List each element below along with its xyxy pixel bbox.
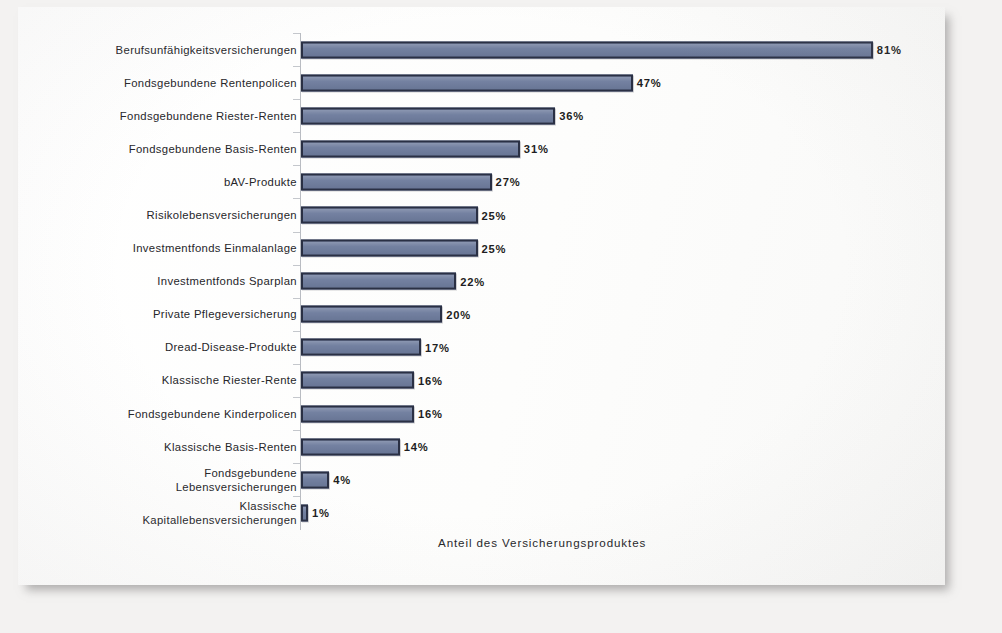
axis-tick (293, 132, 300, 133)
bar-and-value: 36% (301, 107, 584, 124)
bar-value-label: 16% (418, 374, 443, 386)
bar-row: Fondsgebundene Rentenpolicen47% (18, 66, 945, 99)
bar-value-label: 25% (482, 209, 507, 221)
bar-row: Risikolebensversicherungen25% (18, 198, 945, 231)
bar (301, 405, 414, 422)
bar-and-value: 25% (301, 240, 506, 257)
axis-tick (293, 298, 300, 299)
bar-and-value: 16% (301, 372, 443, 389)
category-label: Fondsgebundene Kinderpolicen (35, 407, 297, 421)
category-label: Fondsgebundene Rentenpolicen (35, 76, 297, 90)
bar (301, 240, 478, 257)
axis-tick (293, 165, 300, 166)
bar-and-value: 20% (301, 306, 471, 323)
axis-tick (293, 265, 300, 266)
bar-rows-container: Berufsunfähigkeitsversicherungen81%Fonds… (18, 33, 945, 529)
bar-row: Fondsgebundene Lebensversicherungen4% (18, 463, 945, 496)
axis-tick (293, 397, 300, 398)
category-label: bAV-Produkte (35, 175, 297, 189)
bar-and-value: 17% (301, 339, 450, 356)
category-label: Fondsgebundene Basis-Renten (35, 142, 297, 156)
axis-tick (293, 496, 300, 497)
bar (301, 372, 414, 389)
bar (301, 207, 478, 224)
bar-value-label: 16% (418, 408, 443, 420)
bar-row: Klassische Basis-Renten14% (18, 430, 945, 463)
bar-and-value: 16% (301, 405, 443, 422)
category-label: Private Pflegeversicherung (35, 307, 297, 321)
bar-row: Klassische Riester-Rente16% (18, 364, 945, 397)
bar-value-label: 1% (312, 507, 330, 519)
axis-tick (293, 232, 300, 233)
bar-and-value: 31% (301, 140, 549, 157)
category-label: Risikolebensversicherungen (35, 208, 297, 222)
bar-value-label: 14% (404, 441, 429, 453)
bar-row: Fondsgebundene Basis-Renten31% (18, 132, 945, 165)
bar-value-label: 36% (559, 110, 584, 122)
category-label: Klassische Kapitallebensversicherungen (35, 499, 297, 527)
category-label: Fondsgebundene Lebensversicherungen (35, 466, 297, 494)
category-label: Dread-Disease-Produkte (35, 340, 297, 354)
bar-and-value: 4% (301, 471, 351, 488)
bar-and-value: 1% (301, 504, 330, 521)
bar-row: Private Pflegeversicherung20% (18, 298, 945, 331)
bar (301, 140, 520, 157)
axis-tick (293, 198, 300, 199)
bar-chart: Berufsunfähigkeitsversicherungen81%Fonds… (18, 7, 945, 585)
bar-row: Fondsgebundene Kinderpolicen16% (18, 397, 945, 430)
bar-row: Dread-Disease-Produkte17% (18, 331, 945, 364)
bar-row: bAV-Produkte27% (18, 165, 945, 198)
bar-row: Klassische Kapitallebensversicherungen1% (18, 496, 945, 529)
axis-tick (293, 430, 300, 431)
axis-tick (293, 331, 300, 332)
bar-row: Investmentfonds Sparplan22% (18, 265, 945, 298)
category-label: Berufsunfähigkeitsversicherungen (35, 43, 297, 57)
axis-tick (293, 99, 300, 100)
bar-value-label: 20% (446, 308, 471, 320)
bar (301, 107, 555, 124)
axis-tick (293, 463, 300, 464)
bar-and-value: 14% (301, 438, 429, 455)
bar-value-label: 27% (496, 176, 521, 188)
bar (301, 173, 492, 190)
bar (301, 339, 421, 356)
axis-tick (293, 33, 300, 34)
category-label: Investmentfonds Sparplan (35, 274, 297, 288)
bar (301, 74, 633, 91)
bar (301, 438, 400, 455)
x-axis-caption: Anteil des Versicherungsproduktes (438, 536, 646, 549)
bar-and-value: 47% (301, 74, 662, 91)
axis-tick (293, 364, 300, 365)
bar-row: Fondsgebundene Riester-Renten36% (18, 99, 945, 132)
bar-and-value: 22% (301, 273, 485, 290)
bar-and-value: 25% (301, 207, 506, 224)
category-label: Investmentfonds Einmalanlage (35, 241, 297, 255)
bar (301, 471, 329, 488)
bar (301, 273, 456, 290)
bar-value-label: 25% (482, 242, 507, 254)
bar-and-value: 81% (301, 41, 902, 58)
bar-and-value: 27% (301, 173, 520, 190)
bar-value-label: 47% (637, 77, 662, 89)
bar-value-label: 31% (524, 143, 549, 155)
category-label: Klassische Basis-Renten (35, 440, 297, 454)
axis-tick (293, 66, 300, 67)
bar (301, 306, 442, 323)
bar-row: Berufsunfähigkeitsversicherungen81% (18, 33, 945, 66)
bar (301, 504, 308, 521)
bar (301, 41, 873, 58)
bar-value-label: 17% (425, 341, 450, 353)
scanned-page-sheet: Berufsunfähigkeitsversicherungen81%Fonds… (18, 7, 945, 585)
bar-value-label: 81% (877, 44, 902, 56)
category-label: Klassische Riester-Rente (35, 373, 297, 387)
bar-row: Investmentfonds Einmalanlage25% (18, 232, 945, 265)
bar-value-label: 22% (460, 275, 485, 287)
category-label: Fondsgebundene Riester-Renten (35, 109, 297, 123)
bar-value-label: 4% (333, 474, 351, 486)
